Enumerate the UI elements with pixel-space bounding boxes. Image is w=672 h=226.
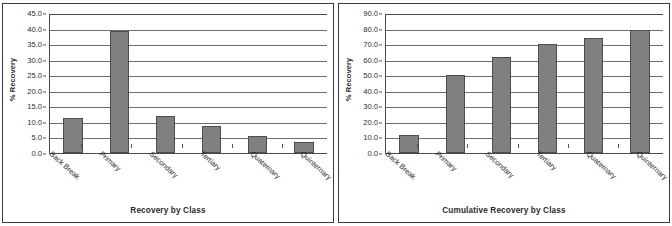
bar-slot (189, 14, 235, 153)
y-axis-tick-label: 90.0 (363, 10, 378, 18)
y-axis-tick-label: 50.0 (363, 72, 378, 80)
y-axis-tick-mark (379, 107, 382, 108)
bar-slot (432, 14, 478, 153)
y-axis-tick-label: 45.0 (27, 10, 42, 18)
plot-area-frame (49, 14, 327, 154)
y-axis-tick-label: 20.0 (363, 119, 378, 127)
x-axis-category-slot: Primary (82, 148, 132, 192)
x-axis-category-label: Secondary (484, 150, 515, 179)
y-axis-tick-labels: 0.05.010.015.020.025.030.035.040.045.0 (20, 14, 46, 154)
y-axis-tick-label: 30.0 (27, 57, 42, 65)
y-axis-tick-mark (43, 138, 46, 139)
y-axis-tick-label: 30.0 (363, 104, 378, 112)
x-axis-category-slot: Secondary (132, 148, 182, 192)
x-axis-category-slot: Back Break (32, 148, 82, 192)
x-axis-category-slot: Primary (418, 148, 468, 192)
y-axis-tick-mark (379, 14, 382, 15)
y-axis-title: % Recovery (6, 4, 20, 154)
x-axis-category-label: Primary (98, 150, 122, 173)
plot-wrapper: 0.05.010.015.020.025.030.035.040.045.0 (20, 14, 327, 154)
chart-panel-recovery-by-class: % Recovery 0.05.010.015.020.025.030.035.… (2, 3, 334, 223)
bars-layer (50, 14, 327, 153)
x-axis-category-slot: Secondary (468, 148, 518, 192)
y-axis-title-text: % Recovery (345, 57, 354, 101)
y-axis-tick-label: 80.0 (363, 26, 378, 34)
y-axis-tick-mark (379, 91, 382, 92)
y-axis-tick-mark (379, 76, 382, 77)
y-axis-tick-label: 20.0 (27, 88, 42, 96)
y-axis-tick-label: 60.0 (363, 57, 378, 65)
bar-slot (478, 14, 524, 153)
y-axis-tick-mark (379, 29, 382, 30)
y-axis-tick-label: 70.0 (363, 41, 378, 49)
bar-slot (96, 14, 142, 153)
x-axis-category-label: Quinternary (635, 150, 669, 181)
y-axis-tick-mark (43, 107, 46, 108)
bar-slot (571, 14, 617, 153)
figure-two-bar-charts: % Recovery 0.05.010.015.020.025.030.035.… (0, 0, 672, 226)
x-axis-category-slot: Tertiary (183, 148, 233, 192)
plot-wrapper: 0.010.020.030.040.050.060.070.080.090.0 (356, 14, 663, 154)
x-axis-category-label: Back Break (384, 150, 417, 181)
bar[interactable] (492, 57, 511, 153)
bar-slot (617, 14, 663, 153)
x-axis-category-slot: Quinternary (283, 148, 333, 192)
y-axis-tick-label: 25.0 (27, 72, 42, 80)
x-axis-title: Cumulative Recovery by Class (339, 206, 669, 215)
bar-slot (50, 14, 96, 153)
y-axis-tick-label: 40.0 (363, 88, 378, 96)
y-axis-tick-mark (43, 122, 46, 123)
x-axis-category-label: Quinternary (299, 150, 333, 181)
bar[interactable] (538, 44, 557, 153)
y-axis-tick-label: 15.0 (27, 104, 42, 112)
x-axis-category-slot: Quaternary (233, 148, 283, 192)
x-axis-category-label: Quaternary (249, 150, 281, 180)
y-axis-tick-mark (43, 45, 46, 46)
plot-area-frame (385, 14, 663, 154)
y-axis-title: % Recovery (342, 4, 356, 154)
bar-slot (386, 14, 432, 153)
y-axis-tick-label: 5.0 (31, 135, 42, 143)
bar-slot (281, 14, 327, 153)
x-axis-category-label: Tertiary (199, 150, 222, 172)
y-axis-tick-mark (43, 29, 46, 30)
chart-panel-cumulative-recovery-by-class: % Recovery 0.010.020.030.040.050.060.070… (338, 3, 670, 223)
y-axis-tick-label: 10.0 (27, 119, 42, 127)
y-axis-tick-mark (379, 60, 382, 61)
y-axis-tick-mark (379, 45, 382, 46)
bar-slot (235, 14, 281, 153)
y-axis-tick-label: 10.0 (363, 135, 378, 143)
bar-slot (525, 14, 571, 153)
x-axis-category-labels: Back BreakPrimarySecondaryTertiaryQuater… (368, 148, 669, 192)
x-axis-category-label: Primary (434, 150, 458, 173)
bar[interactable] (110, 31, 129, 153)
x-axis-category-labels: Back BreakPrimarySecondaryTertiaryQuater… (32, 148, 333, 192)
y-axis-tick-mark (379, 122, 382, 123)
x-axis-category-slot: Tertiary (519, 148, 569, 192)
y-axis-tick-label: 40.0 (27, 26, 42, 34)
y-axis-tick-mark (43, 14, 46, 15)
x-axis-title: Recovery by Class (3, 206, 333, 215)
y-axis-tick-labels: 0.010.020.030.040.050.060.070.080.090.0 (356, 14, 382, 154)
bar[interactable] (584, 38, 603, 153)
bars-layer (386, 14, 663, 153)
x-axis-category-label: Tertiary (535, 150, 558, 172)
y-axis-title-text: % Recovery (9, 57, 18, 101)
y-axis-tick-mark (43, 91, 46, 92)
y-axis-tick-mark (43, 76, 46, 77)
x-axis-category-slot: Quinternary (619, 148, 669, 192)
bar[interactable] (630, 30, 649, 153)
y-axis-tick-label: 35.0 (27, 41, 42, 49)
x-axis-category-label: Quaternary (585, 150, 617, 180)
y-axis-tick-mark (379, 138, 382, 139)
y-axis-tick-mark (43, 60, 46, 61)
x-axis-category-label: Secondary (148, 150, 179, 179)
x-axis-category-slot: Quaternary (569, 148, 619, 192)
bar-slot (142, 14, 188, 153)
x-axis-category-slot: Back Break (368, 148, 418, 192)
x-axis-category-label: Back Break (48, 150, 81, 181)
bar[interactable] (446, 75, 465, 153)
